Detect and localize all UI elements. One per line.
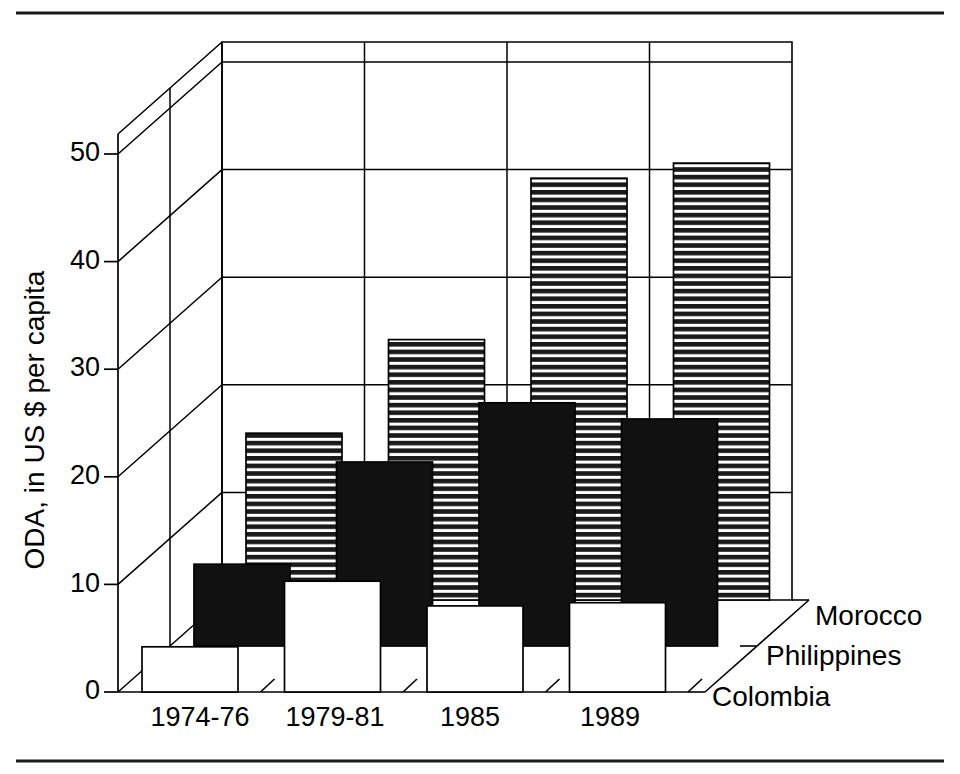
xtick-3 bbox=[688, 679, 702, 692]
xtick-0 bbox=[261, 679, 275, 692]
xtick-label-1: 1979-81 bbox=[285, 702, 384, 732]
ytick-label-40: 40 bbox=[70, 245, 100, 275]
xtick-label-3: 1989 bbox=[580, 702, 640, 732]
ytick-label-20: 20 bbox=[70, 460, 100, 490]
depth-axis-legend: Morocco Philippines Colombia bbox=[688, 600, 922, 712]
bar-colombia-1974-76 bbox=[142, 647, 238, 692]
y-axis-title: ODA, in US $ per capita bbox=[19, 270, 50, 569]
y-axis: 50 40 30 20 10 0 ODA, in US $ per capita bbox=[19, 137, 118, 705]
bar-face bbox=[285, 581, 381, 692]
bar-colombia-1989 bbox=[570, 603, 666, 692]
ytick-label-50: 50 bbox=[70, 137, 100, 167]
ytick-label-0: 0 bbox=[85, 675, 100, 705]
bar-face bbox=[570, 603, 666, 692]
bar-colombia-1985 bbox=[427, 606, 523, 692]
bar-face bbox=[427, 606, 523, 692]
legend-label-colombia: Colombia bbox=[712, 681, 831, 712]
xtick-label-2: 1985 bbox=[440, 702, 500, 732]
figure-container: 50 40 30 20 10 0 ODA, in US $ per capita… bbox=[0, 0, 960, 774]
legend-label-philippines: Philippines bbox=[766, 640, 901, 671]
bar-philippines-1974-76 bbox=[194, 564, 290, 646]
legend-label-morocco: Morocco bbox=[815, 600, 922, 631]
bar-face bbox=[194, 564, 290, 646]
bar-colombia-1979-81 bbox=[285, 581, 381, 692]
bar-face bbox=[142, 647, 238, 692]
xtick-2 bbox=[546, 679, 560, 692]
xtick-1 bbox=[403, 679, 417, 692]
ytick-label-30: 30 bbox=[70, 352, 100, 382]
bar-chart-svg: 50 40 30 20 10 0 ODA, in US $ per capita… bbox=[0, 0, 960, 774]
xtick-label-0: 1974-76 bbox=[150, 702, 249, 732]
ytick-label-10: 10 bbox=[70, 568, 100, 598]
